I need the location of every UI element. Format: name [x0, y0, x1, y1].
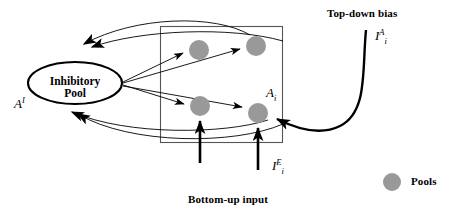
- pool-top-left: [189, 40, 209, 60]
- inhibitory-pool-symbol-base: A: [14, 96, 22, 111]
- inhibitory-pool-symbol: AI: [14, 96, 25, 110]
- feedback-arc-bottom-inner: [72, 112, 268, 130]
- bottom-up-input-symbol-subscript: i: [282, 166, 284, 176]
- inhibitory-pool-label-line2: Pool: [64, 87, 86, 99]
- top-down-bias-symbol: IAi: [375, 28, 387, 45]
- inhibitory-pool-symbol-superscript: I: [22, 95, 25, 105]
- excitatory-pool-symbol-base: A: [266, 85, 274, 100]
- network-diagram: Inhibitory Pool AI Ai Top-down bias IAi …: [0, 0, 453, 221]
- inhibitory-pool-label: Inhibitory Pool: [40, 76, 110, 99]
- pool-top-right: [246, 36, 266, 56]
- excitatory-pool-symbol-subscript: i: [274, 93, 276, 103]
- pool-bottom-left: [190, 96, 210, 116]
- top-down-bias-arrow: [277, 30, 366, 131]
- legend-pools-label: Pools: [411, 176, 437, 187]
- legend-pool-marker-icon: [383, 173, 401, 191]
- inhibitory-pool-label-line1: Inhibitory: [50, 75, 101, 87]
- excitatory-pool-symbol: Ai: [266, 86, 276, 102]
- inhibition-edge-to-top-left: [123, 53, 183, 82]
- bottom-up-input-symbol: IEi: [272, 158, 284, 175]
- top-down-bias-title: Top-down bias: [327, 8, 397, 19]
- top-down-bias-symbol-subscript: i: [385, 36, 387, 46]
- bottom-up-input-title: Bottom-up input: [188, 194, 268, 205]
- pool-bottom-right: [248, 103, 268, 123]
